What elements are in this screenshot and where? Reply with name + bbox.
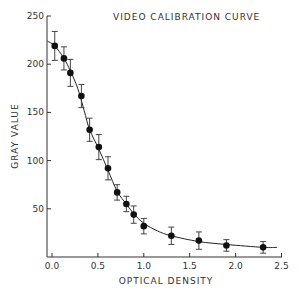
- data-point: [96, 144, 103, 151]
- chart-title: VIDEO CALIBRATION CURVE: [113, 12, 260, 22]
- x-tick-label: 1.5: [183, 261, 197, 271]
- data-point: [130, 211, 137, 218]
- x-tick-label: 0.0: [45, 261, 60, 271]
- x-axis-label: OPTICAL DENSITY: [119, 276, 214, 286]
- data-point: [260, 244, 267, 251]
- y-tick-label: 200: [27, 59, 44, 69]
- data-point: [78, 93, 85, 100]
- data-points: [51, 31, 266, 253]
- data-point: [168, 232, 175, 239]
- x-tick-label: 0.5: [91, 261, 105, 271]
- data-point: [123, 201, 130, 208]
- data-point: [196, 237, 203, 244]
- y-tick-label: 250: [27, 11, 44, 21]
- y-axis-label: GRAY VALUE: [10, 103, 20, 168]
- data-point: [61, 55, 68, 62]
- data-point: [223, 242, 230, 249]
- calibration-chart: VIDEO CALIBRATION CURVE 0.00.51.01.52.02…: [0, 0, 299, 297]
- data-point: [114, 189, 121, 196]
- data-point: [51, 43, 58, 50]
- y-tick-label: 100: [27, 156, 44, 166]
- axes: 0.00.51.01.52.02.550100150200250: [27, 11, 289, 271]
- data-point: [141, 223, 148, 230]
- data-point: [105, 165, 112, 172]
- y-tick-label: 50: [33, 204, 45, 214]
- x-tick-label: 1.0: [137, 261, 152, 271]
- x-tick-label: 2.5: [274, 261, 288, 271]
- data-point: [86, 126, 93, 133]
- x-tick-label: 2.0: [228, 261, 243, 271]
- y-tick-label: 150: [27, 107, 44, 117]
- data-point: [67, 70, 74, 77]
- fitted-curve-line: [47, 41, 277, 248]
